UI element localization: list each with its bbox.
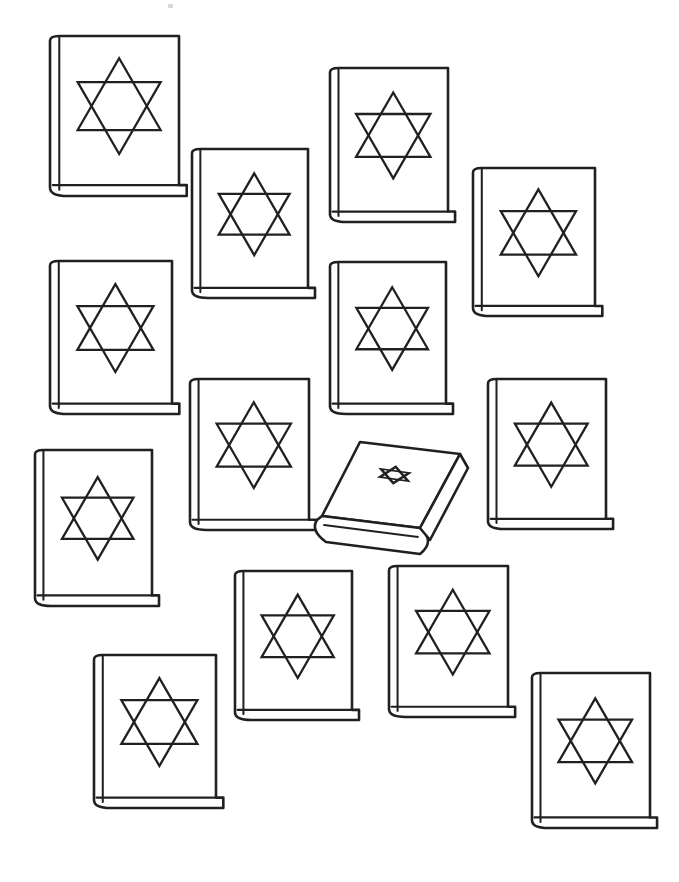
book-bottom-right — [532, 673, 657, 828]
book-bottom-center-left — [235, 571, 359, 720]
book-middle-center — [330, 262, 453, 414]
book-top-left — [50, 36, 187, 196]
book-middle-left — [50, 261, 179, 414]
scan-speck — [168, 4, 173, 8]
book-top-center — [330, 68, 455, 222]
book-top-left-inner — [192, 149, 315, 298]
book-lower-left — [35, 450, 159, 606]
book-middle-inner-left — [190, 379, 316, 530]
book-bottom-center-right — [389, 566, 515, 717]
coloring-page-canvas — [0, 0, 679, 882]
book-middle-right — [488, 379, 613, 529]
book-bottom-left — [94, 655, 223, 808]
book-top-right — [473, 168, 602, 316]
books-illustration — [0, 0, 679, 882]
